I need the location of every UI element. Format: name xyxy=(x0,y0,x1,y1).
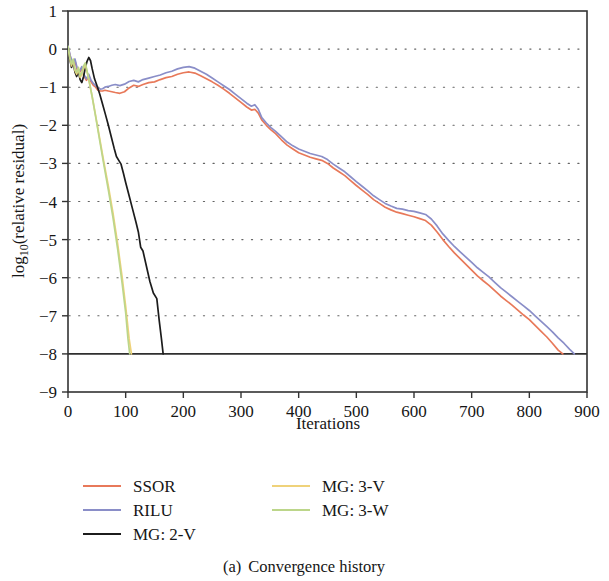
legend-item: RILU xyxy=(83,501,173,520)
gridlines xyxy=(69,49,586,316)
y-axis-title: log10(relative residual) xyxy=(9,124,31,278)
y-tick-label: −4 xyxy=(39,193,58,212)
x-tick-label: 100 xyxy=(113,402,139,421)
y-tick-label: −3 xyxy=(39,154,57,173)
legend-label: MG: 2-V xyxy=(133,525,197,544)
chart-legend: SSORRILUMG: 2-VMG: 3-VMG: 3-W xyxy=(83,477,390,544)
series-line xyxy=(68,46,574,354)
legend-label: SSOR xyxy=(133,477,176,496)
series-line xyxy=(68,47,563,354)
y-tick-label: −2 xyxy=(39,116,57,135)
series-lines xyxy=(68,46,574,354)
y-axis-tick-labels: 10−1−2−3−4−5−6−7−8−9 xyxy=(39,2,58,402)
y-tick-label: −9 xyxy=(39,383,57,402)
x-tick-label: 900 xyxy=(574,402,600,421)
x-tick-label: 800 xyxy=(517,402,543,421)
x-axis-ticks xyxy=(68,392,587,398)
y-tick-label: 1 xyxy=(49,2,58,21)
legend-label: MG: 3-V xyxy=(322,477,386,496)
y-axis-title-base: log xyxy=(9,256,28,278)
legend-label: RILU xyxy=(133,501,173,520)
legend-item: MG: 3-W xyxy=(272,501,390,520)
x-tick-label: 600 xyxy=(401,402,427,421)
figure-caption: (a)Convergence history xyxy=(223,557,386,576)
y-tick-label: −5 xyxy=(39,231,57,250)
y-axis-title-rest: (relative residual) xyxy=(9,124,28,244)
x-tick-label: 0 xyxy=(64,402,73,421)
svg-text:log10(relative residual): log10(relative residual) xyxy=(9,124,31,278)
y-tick-label: −7 xyxy=(39,307,58,326)
figure-caption-prefix: (a) xyxy=(223,557,241,576)
y-axis-ticks xyxy=(62,11,68,392)
x-axis-title: Iterations xyxy=(296,414,360,433)
y-tick-label: 0 xyxy=(49,40,58,59)
legend-item: MG: 3-V xyxy=(272,477,386,496)
legend-item: MG: 2-V xyxy=(83,525,197,544)
y-tick-label: −6 xyxy=(39,269,57,288)
x-tick-label: 700 xyxy=(459,402,485,421)
figure-caption-body: Convergence history xyxy=(248,557,385,576)
x-tick-label: 300 xyxy=(228,402,254,421)
legend-item: SSOR xyxy=(83,477,176,496)
convergence-history-figure: 0100200300400500600700800900 10−1−2−3−4−… xyxy=(0,0,609,581)
y-tick-label: −1 xyxy=(39,78,57,97)
convergence-chart: 0100200300400500600700800900 10−1−2−3−4−… xyxy=(0,0,609,581)
legend-label: MG: 3-W xyxy=(322,501,390,520)
y-axis-title-subscript: 10 xyxy=(17,244,31,256)
x-tick-label: 200 xyxy=(171,402,197,421)
y-tick-label: −8 xyxy=(39,345,57,364)
